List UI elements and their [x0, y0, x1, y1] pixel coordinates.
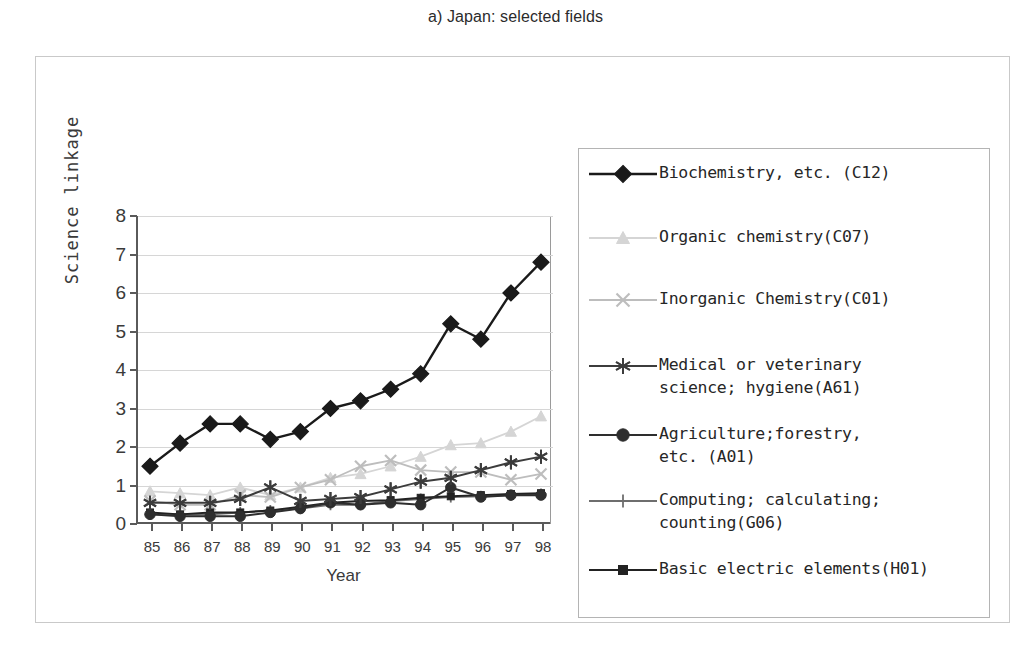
x-tick-mark — [452, 524, 454, 531]
y-tick-label: 0 — [100, 513, 126, 535]
legend-item[interactable]: Medical or veterinary science; hygiene(A… — [579, 355, 991, 399]
x-tick-mark — [241, 524, 243, 531]
legend-item-label: Agriculture;forestry, etc. (A01) — [659, 422, 861, 468]
x-tick-mark — [301, 524, 303, 531]
data-point-diamond — [353, 393, 369, 409]
y-axis-title: Science linkage — [62, 110, 82, 290]
x-tick-mark — [181, 524, 183, 531]
x-tick-mark — [422, 524, 424, 531]
y-tick-label: 5 — [100, 321, 126, 343]
data-point-circle — [415, 500, 425, 510]
legend-marker-plus-icon — [587, 490, 659, 512]
x-tick-mark — [331, 524, 333, 531]
legend-item-label: Inorganic Chemistry(C01) — [659, 287, 890, 310]
x-tick-label: 98 — [523, 538, 563, 555]
data-point-circle — [536, 490, 546, 500]
y-tick-label: 1 — [100, 475, 126, 497]
y-tick-label: 7 — [100, 244, 126, 266]
data-point-circle — [506, 490, 516, 500]
data-point-triangle — [505, 426, 516, 436]
x-tick-mark — [542, 524, 544, 531]
x-tick-mark — [392, 524, 394, 531]
legend-item[interactable]: Organic chemistry(C07) — [579, 227, 991, 249]
x-tick-mark — [211, 524, 213, 531]
legend-item-label: Medical or veterinary science; hygiene(A… — [659, 353, 861, 399]
legend-item-label: Computing; calculating; counting(G06) — [659, 488, 881, 534]
legend-item-label: Basic electric elements(H01) — [659, 557, 929, 580]
data-point-diamond — [383, 381, 399, 397]
data-point-square-small — [447, 493, 454, 500]
legend-marker-triangle-icon — [587, 227, 659, 249]
data-point-diamond — [413, 366, 429, 382]
y-tick-label: 3 — [100, 398, 126, 420]
data-point-diamond — [473, 331, 489, 347]
data-point-square-small — [619, 566, 628, 575]
data-point-plus — [617, 495, 630, 508]
data-point-circle — [145, 509, 155, 519]
series-line — [144, 450, 547, 510]
legend-item[interactable]: Basic electric elements(H01) — [579, 559, 991, 581]
legend-item-label: Organic chemistry(C07) — [659, 225, 871, 248]
data-point-asterisk — [385, 482, 397, 496]
legend-marker-circle-icon — [587, 424, 659, 446]
legend-item[interactable]: Biochemistry, etc. (C12) — [579, 163, 991, 185]
legend-marker-diamond-icon — [587, 163, 659, 185]
data-point-circle — [235, 511, 245, 521]
data-point-circle — [476, 492, 486, 502]
x-tick-mark — [482, 524, 484, 531]
data-point-diamond — [202, 416, 218, 432]
data-point-diamond — [232, 416, 248, 432]
data-point-diamond — [262, 431, 278, 447]
data-point-circle — [265, 507, 275, 517]
x-tick-mark — [271, 524, 273, 531]
legend-item-label: Biochemistry, etc. (C12) — [659, 161, 890, 184]
legend-marker-square-small-icon — [587, 559, 659, 581]
data-point-circle — [175, 511, 185, 521]
legend: Biochemistry, etc. (C12)Organic chemistr… — [578, 148, 990, 618]
series-plot — [136, 216, 551, 524]
legend-item[interactable]: Agriculture;forestry, etc. (A01) — [579, 424, 991, 468]
x-axis-title: Year — [136, 566, 551, 586]
data-point-diamond — [615, 166, 632, 183]
x-tick-mark — [151, 524, 153, 531]
legend-item[interactable]: Inorganic Chemistry(C01) — [579, 289, 991, 311]
legend-item[interactable]: Computing; calculating; counting(G06) — [579, 490, 991, 534]
data-point-triangle — [536, 411, 547, 421]
y-tick-label: 8 — [100, 205, 126, 227]
legend-marker-asterisk-icon — [587, 355, 659, 377]
y-tick-label: 6 — [100, 282, 126, 304]
data-point-triangle — [415, 451, 426, 461]
data-point-diamond — [443, 316, 459, 332]
data-point-circle — [385, 498, 395, 508]
y-tick-label: 2 — [100, 436, 126, 458]
data-point-circle — [617, 429, 629, 441]
data-point-circle — [205, 511, 215, 521]
x-tick-mark — [512, 524, 514, 531]
legend-marker-cross-x-icon — [587, 289, 659, 311]
x-tick-mark — [362, 524, 364, 531]
y-tick-label: 4 — [100, 359, 126, 381]
